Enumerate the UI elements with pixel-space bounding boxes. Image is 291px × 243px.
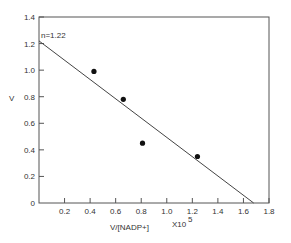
y-tick-label: 1.2 [24, 40, 36, 49]
x-tick-label: 0.8 [136, 207, 148, 216]
x-tick-label: 0.2 [59, 207, 71, 216]
x-tick-label: 1.8 [263, 207, 275, 216]
y-tick-label: 0 [31, 199, 36, 208]
x-tick-label: 0.4 [85, 207, 97, 216]
y-tick-label: 0.2 [24, 172, 36, 181]
fit-line [39, 41, 254, 203]
x-tick-label: 1.0 [161, 207, 173, 216]
data-series [39, 41, 254, 203]
data-point [195, 154, 200, 159]
plot-frame [39, 17, 269, 203]
y-axis-label: V [9, 94, 15, 103]
data-point [91, 69, 96, 74]
data-point [140, 141, 145, 146]
y-tick-label: 1.0 [24, 66, 36, 75]
annotation-n: n=1.22 [41, 31, 66, 40]
chart-svg: 0.20.40.60.81.01.21.41.61.8 00.20.40.60.… [0, 0, 291, 243]
x-axis-ticks: 0.20.40.60.81.01.21.41.61.8 [59, 198, 275, 216]
y-tick-label: 0.8 [24, 93, 36, 102]
x-axis-label: V/[NADP+] [110, 223, 149, 232]
x-tick-label: 0.6 [110, 207, 122, 216]
x-tick-label: 1.6 [238, 207, 250, 216]
kinetics-chart: 0.20.40.60.81.01.21.41.61.8 00.20.40.60.… [0, 0, 291, 243]
x-tick-label: 1.4 [212, 207, 224, 216]
x-axis-exponent: 5 [188, 215, 193, 224]
y-tick-label: 0.6 [24, 119, 36, 128]
axes-box [39, 17, 269, 203]
y-tick-label: 1.4 [24, 13, 36, 22]
x-axis-multiplier: X10 [172, 220, 187, 229]
y-tick-label: 0.4 [24, 146, 36, 155]
data-point [121, 97, 126, 102]
